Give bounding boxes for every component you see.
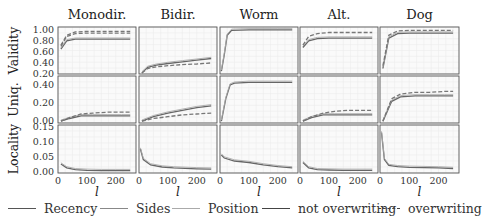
row-label: Locality — [6, 123, 21, 174]
x-tick-label: 200 — [349, 175, 367, 186]
y-tick-label: 0.00 — [33, 166, 54, 177]
legend-swatch-sides — [100, 208, 128, 209]
row-label: Validity — [6, 26, 21, 75]
x-axis-label: l — [418, 185, 422, 199]
panel-uniq-bidir — [139, 76, 217, 123]
x-tick-label: 200 — [269, 175, 287, 186]
panel-uniq-worm — [220, 76, 298, 123]
small-multiples-chart: Monodir.Bidir.WormAlt.DogValidity0.200.4… — [0, 0, 475, 200]
legend-item-overwriting: overwriting — [378, 201, 482, 216]
x-tick-label: 200 — [429, 175, 447, 186]
x-tick-label: 100 — [240, 175, 258, 186]
column-title: Worm — [240, 7, 279, 22]
x-tick-label: 200 — [107, 175, 125, 186]
x-tick-label: 0 — [377, 175, 383, 186]
legend-item-recency: Recency — [8, 201, 97, 216]
column-title: Monodir. — [68, 7, 127, 22]
panel-locality-monodir — [58, 125, 136, 173]
panel-validity-worm — [220, 27, 298, 74]
y-tick-label: 0.20 — [33, 68, 54, 79]
x-tick-label: 0 — [55, 175, 61, 186]
y-tick-label: 0.20 — [33, 97, 54, 108]
x-axis-label: l — [337, 185, 341, 199]
y-tick-label: 0.60 — [33, 46, 54, 57]
legend: Recency Sides Position not overwriting o… — [0, 201, 475, 219]
x-axis-label: l — [95, 185, 99, 199]
x-tick-label: 100 — [78, 175, 96, 186]
x-tick-label: 100 — [159, 175, 177, 186]
legend-item-position: Position — [172, 201, 258, 216]
panel-validity-monodir — [58, 27, 136, 74]
panel-uniq-dog — [380, 76, 459, 123]
legend-label: overwriting — [408, 201, 482, 216]
panel-locality-bidir — [139, 125, 217, 173]
y-tick-label: 0.10 — [33, 136, 54, 147]
panel-locality-alt — [300, 125, 378, 173]
y-tick-label: 0.15 — [33, 121, 54, 132]
legend-swatch-not-overwriting — [262, 208, 290, 209]
x-tick-label: 0 — [217, 175, 223, 186]
panel-validity-alt — [300, 27, 378, 74]
legend-swatch-overwriting — [378, 208, 400, 209]
x-tick-label: 0 — [297, 175, 303, 186]
x-axis-label: l — [176, 185, 180, 199]
column-title: Alt. — [327, 7, 351, 22]
panel-validity-bidir — [139, 27, 217, 74]
column-title: Bidir. — [160, 7, 195, 22]
panel-locality-worm — [220, 125, 298, 173]
legend-item-not-overwriting: not overwriting — [262, 201, 396, 216]
panel-validity-dog — [380, 27, 459, 74]
y-tick-label: 0.40 — [33, 57, 54, 68]
y-tick-label: 0.80 — [33, 35, 54, 46]
x-axis-label: l — [257, 185, 261, 199]
x-tick-label: 200 — [188, 175, 206, 186]
legend-label: Sides — [136, 201, 170, 216]
y-tick-label: 0.05 — [33, 151, 54, 162]
legend-item-sides: Sides — [100, 201, 170, 216]
y-tick-label: 0.40 — [33, 79, 54, 90]
legend-swatch-recency — [8, 208, 36, 209]
panel-uniq-monodir — [58, 76, 136, 123]
panel-uniq-alt — [300, 76, 378, 123]
column-title: Dog — [406, 7, 433, 22]
y-tick-label: 1.00 — [33, 24, 54, 35]
x-tick-label: 100 — [320, 175, 338, 186]
panel-locality-dog — [380, 125, 459, 173]
legend-label: Recency — [44, 201, 97, 216]
x-tick-label: 100 — [400, 175, 418, 186]
legend-swatch-position — [172, 208, 200, 209]
legend-label: Position — [208, 201, 258, 216]
row-label: Uniq. — [6, 82, 21, 117]
x-tick-label: 0 — [136, 175, 142, 186]
